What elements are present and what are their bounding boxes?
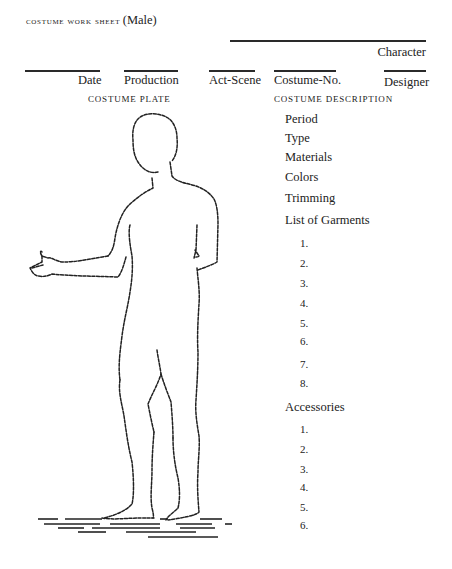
costume-plate-figure xyxy=(0,0,452,569)
crotch-right xyxy=(161,374,173,438)
right-inner-arm xyxy=(194,225,199,258)
left-foot xyxy=(102,518,154,519)
right-body-outline xyxy=(170,162,218,270)
right-torso-outline xyxy=(168,268,199,520)
left-leg-inner xyxy=(151,432,154,518)
right-leg-inner xyxy=(166,438,180,520)
left-arm-outline xyxy=(30,256,126,277)
crotch-left xyxy=(148,350,161,432)
left-leg-outer xyxy=(104,380,134,518)
left-torso-outline xyxy=(119,225,132,380)
ground-lines xyxy=(38,519,232,537)
